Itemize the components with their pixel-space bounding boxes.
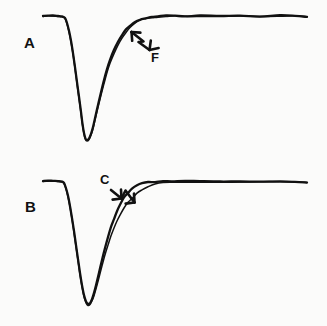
figure-root: A F B C (0, 0, 327, 326)
trace-series-group-a (43, 15, 307, 141)
trace-line (43, 181, 307, 304)
trace-plot-b (0, 163, 327, 326)
panel-b: B C (0, 163, 327, 326)
trace-plot-a (0, 0, 327, 163)
trace-line (43, 181, 307, 306)
annotation-label-f: F (151, 51, 159, 64)
trace-series-group-b (43, 181, 307, 306)
trace-line (43, 16, 307, 141)
panel-label-a: A (24, 35, 35, 50)
double-chevron-arrow-down-right-icon (108, 182, 142, 212)
panel-a: A F (0, 0, 327, 163)
panel-label-b: B (25, 199, 36, 214)
